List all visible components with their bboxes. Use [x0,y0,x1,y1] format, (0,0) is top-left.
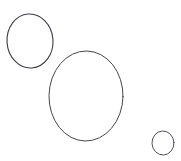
shape-canvas-svg [0,0,181,161]
ellipse-sketch-canvas [0,0,181,161]
